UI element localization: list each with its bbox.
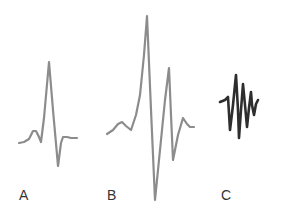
waveform-figure: [0, 0, 282, 216]
waveform-a: [19, 62, 77, 166]
panel-label-a: A: [19, 188, 28, 202]
waveform-c: [220, 75, 258, 138]
panel-label-b: B: [107, 188, 116, 202]
panel-label-c: C: [221, 188, 231, 202]
waveform-b: [107, 16, 194, 200]
